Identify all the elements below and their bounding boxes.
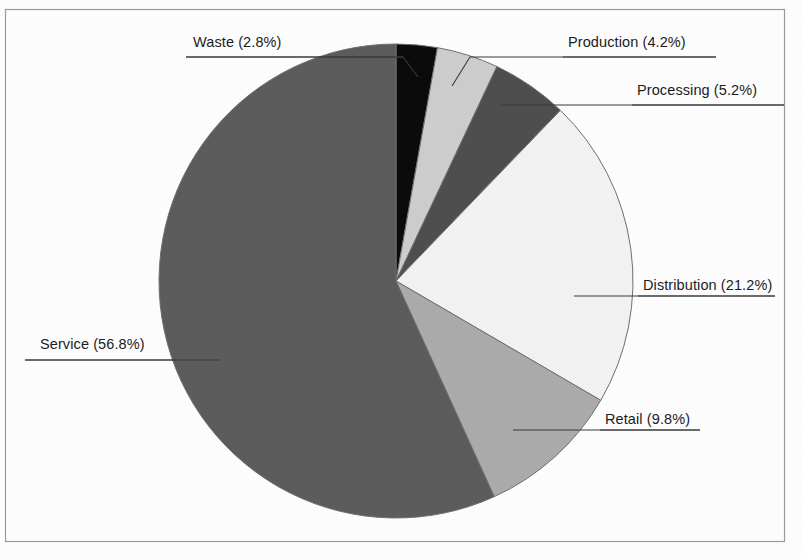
slice-label-retail: Retail (9.8%) xyxy=(605,411,690,427)
pie-chart-canvas: Waste (2.8%)Production (4.2%)Processing … xyxy=(0,0,801,559)
slice-label-processing: Processing (5.2%) xyxy=(637,82,757,98)
pie-chart-figure: Waste (2.8%)Production (4.2%)Processing … xyxy=(0,0,801,559)
slice-label-waste: Waste (2.8%) xyxy=(193,34,282,50)
slice-label-production: Production (4.2%) xyxy=(568,34,686,50)
slice-label-service: Service (56.8%) xyxy=(40,336,145,352)
pie-slices xyxy=(159,44,633,518)
slice-label-distribution: Distribution (21.2%) xyxy=(643,277,772,293)
